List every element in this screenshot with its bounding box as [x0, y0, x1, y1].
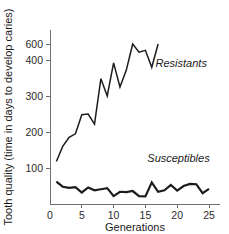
y-axis: 100200300400600 Tooth quality (time in d… — [2, 8, 50, 225]
y-axis-title: Tooth quality (time in days to develop c… — [2, 8, 14, 225]
y-tick-label: 300 — [25, 90, 43, 102]
y-tick-label: 200 — [25, 126, 43, 138]
tooth-quality-line-chart: 100200300400600 Tooth quality (time in d… — [0, 0, 229, 234]
annotation-susceptibles: Susceptibles — [147, 152, 210, 164]
y-tick-label: 600 — [25, 38, 43, 50]
x-tick-label: 5 — [79, 209, 85, 221]
series-annotations: ResistantsSusceptibles — [147, 57, 210, 163]
x-axis-title: Generations — [105, 221, 165, 233]
x-tick-label: 0 — [47, 209, 53, 221]
series-line-resistants — [56, 44, 158, 162]
y-tick-group: 100200300400600 — [25, 38, 50, 174]
chart-container: 100200300400600 Tooth quality (time in d… — [0, 0, 229, 234]
x-tick-label: 20 — [171, 209, 183, 221]
series-line-susceptibles — [56, 182, 209, 197]
y-tick-label: 100 — [25, 162, 43, 174]
x-tick-label: 10 — [108, 209, 120, 221]
x-axis: 0510152025 Generations — [47, 204, 220, 233]
x-tick-group: 0510152025 — [47, 204, 215, 221]
y-tick-label: 400 — [25, 54, 43, 66]
annotation-resistants: Resistants — [156, 57, 208, 69]
x-tick-label: 15 — [140, 209, 152, 221]
x-tick-label: 25 — [203, 209, 215, 221]
